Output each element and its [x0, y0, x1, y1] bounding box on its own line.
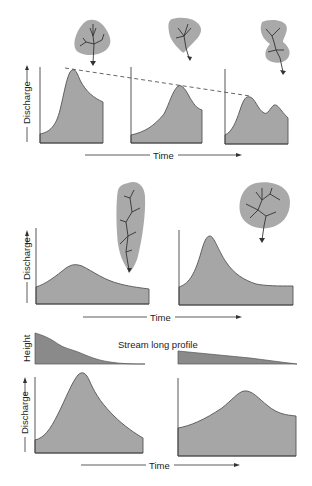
stream-profile-gentle	[178, 351, 297, 364]
discharge-label-3: Discharge	[19, 391, 30, 434]
row-2: Discharge Time	[21, 182, 293, 323]
x-axis-label-time: Time	[85, 150, 242, 161]
y-axis-label-discharge-2: Discharge	[21, 230, 32, 303]
y-axis-label-discharge-3: Discharge	[19, 377, 30, 452]
time-label-3: Time	[149, 460, 170, 471]
basin-two-lobed-icon	[261, 20, 290, 75]
x-axis-label-time-2: Time	[83, 312, 242, 323]
x-axis-label-time-3: Time	[81, 460, 240, 471]
row-3: Height Stream long profile Discharge	[19, 333, 297, 471]
height-label: Height	[21, 334, 32, 362]
time-label-2: Time	[150, 312, 171, 323]
stream-long-profile-title: Stream long profile	[118, 339, 198, 350]
hydrograph-3	[225, 69, 288, 144]
hydrograph-1	[40, 67, 103, 143]
y-axis-label-discharge: Discharge	[21, 65, 32, 142]
hydrograph-2	[131, 67, 202, 143]
hydrograph-gentle	[178, 378, 296, 456]
row-1: Discharge Time	[21, 18, 290, 161]
hydrograph-circular	[179, 230, 293, 305]
basin-round-icon	[74, 20, 110, 66]
basin-circular-icon	[240, 182, 290, 243]
time-label: Time	[153, 150, 174, 161]
discharge-label-2: Discharge	[21, 237, 32, 280]
basin-elongated-icon	[117, 182, 146, 273]
discharge-label: Discharge	[21, 81, 32, 124]
peak-trend-dashed-line	[65, 68, 250, 96]
hydrograph-diagram: Discharge Time	[0, 0, 312, 486]
hydrograph-steep	[35, 373, 143, 453]
basin-triangular-icon	[168, 18, 201, 61]
